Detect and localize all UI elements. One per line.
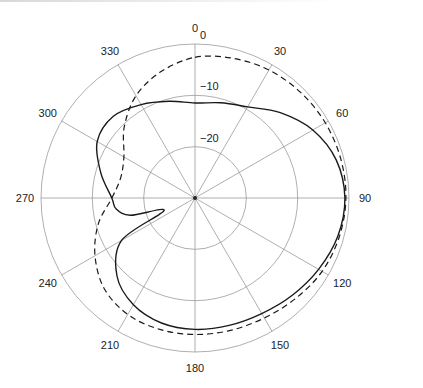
- angle-tick-label: 150: [271, 339, 289, 351]
- data-series: [95, 56, 346, 334]
- angle-tick-label: 120: [333, 277, 351, 289]
- angle-tick-label: 300: [39, 107, 57, 119]
- angle-tick-label: 270: [16, 192, 34, 204]
- angle-tick-label: 210: [101, 339, 119, 351]
- angle-tick-label: 180: [186, 362, 204, 374]
- polar-chart: 03060901201501802102402703003300−10−20: [0, 0, 423, 388]
- grid-spoke: [118, 198, 195, 331]
- grid-spoke: [62, 121, 195, 198]
- center-dot: [193, 196, 197, 200]
- angle-tick-label: 60: [336, 107, 348, 119]
- grid-spoke: [195, 198, 272, 331]
- angle-tick-label: 90: [359, 192, 371, 204]
- angle-tick-label: 240: [39, 277, 57, 289]
- radial-tick-label: −10: [200, 80, 219, 92]
- angle-tick-label: 30: [274, 45, 286, 57]
- angle-tick-label: 0: [192, 22, 198, 34]
- angle-tick-label: 330: [101, 45, 119, 57]
- series-dashed-curve: [95, 56, 346, 334]
- series-solid-curve: [97, 101, 345, 329]
- radial-tick-label: 0: [200, 29, 206, 41]
- grid-spoke: [195, 198, 328, 275]
- grid-spoke: [62, 198, 195, 275]
- radial-tick-label: −20: [200, 132, 219, 144]
- grid-spoke: [118, 65, 195, 198]
